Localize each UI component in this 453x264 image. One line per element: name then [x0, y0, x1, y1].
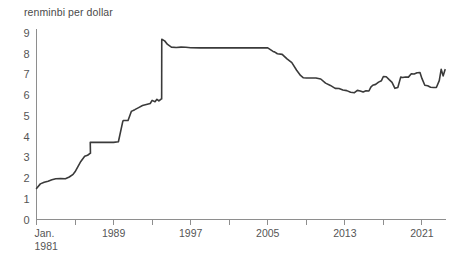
y-axis-tick-label: 8	[23, 48, 29, 60]
y-axis-tick-label: 9	[23, 27, 29, 39]
y-axis-tick-label: 5	[23, 110, 29, 122]
x-axis-tick-label: 1989	[102, 227, 126, 239]
y-axis-tick-label: 1	[23, 193, 29, 205]
y-axis-tick-label: 3	[23, 151, 29, 163]
y-axis-tick-label: 2	[23, 172, 29, 184]
x-axis-tick-label: 2005	[256, 227, 280, 239]
chart-container: renminbi per dollar 0123456789 Jan.19811…	[0, 0, 453, 264]
data-series-line	[37, 39, 446, 188]
x-axis-tick-label: 1997	[179, 227, 203, 239]
y-axis-tick-label: 6	[23, 89, 29, 101]
x-axis-tick-label: 1981	[35, 240, 59, 252]
line-chart-plot: 0123456789 Jan.198119891997200520132021	[0, 0, 453, 264]
x-axis-tick-label: Jan.	[35, 227, 55, 239]
x-axis-tick-label: 2013	[333, 227, 357, 239]
y-axis-tick-label: 4	[23, 131, 29, 143]
x-axis-tick-label: 2021	[410, 227, 434, 239]
y-axis-tick-label: 0	[23, 214, 29, 226]
y-axis-tick-label: 7	[23, 68, 29, 80]
y-axis: 0123456789	[23, 27, 36, 226]
x-axis: Jan.198119891997200520132021	[35, 220, 447, 252]
